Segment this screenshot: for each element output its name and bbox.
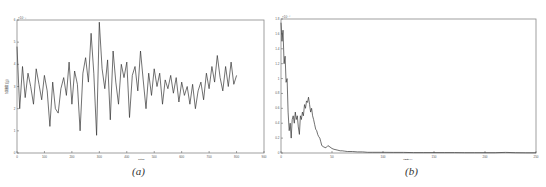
x-tick-label: 250	[533, 155, 538, 159]
y-tick-label: 0.6	[275, 106, 280, 110]
x-tick-label: 100	[380, 155, 385, 159]
chart-panel-a: 01002003004005006007008009000123456×10⁻³…	[0, 0, 270, 187]
y-exponent: ×10⁻⁴	[282, 15, 291, 19]
data-line	[281, 23, 536, 153]
y-tick-label: 0.2	[275, 136, 280, 140]
y-tick-label: 4	[14, 62, 16, 66]
y-tick-label: 1.6	[275, 32, 280, 36]
time-series-chart: 01002003004005006007008009000123456×10⁻³…	[0, 0, 270, 160]
y-tick-label: 1	[278, 77, 280, 81]
plot-frame	[281, 19, 536, 153]
y-tick-label: 3	[14, 85, 16, 89]
y-tick-label: 2	[14, 107, 16, 111]
x-tick-label: 400	[124, 155, 129, 159]
x-axis-label: 时间	[138, 158, 145, 160]
y-tick-label: 1.4	[275, 47, 280, 51]
y-tick-label: 6	[14, 18, 16, 22]
x-tick-label: 0	[16, 155, 18, 159]
x-tick-label: 800	[234, 155, 239, 159]
x-tick-label: 600	[179, 155, 184, 159]
x-tick-label: 200	[69, 155, 74, 159]
spectrum-chart: 05010015020025000.20.40.60.811.21.41.61.…	[272, 0, 546, 160]
x-tick-label: 0	[280, 155, 282, 159]
y-tick-label: 5	[14, 40, 16, 44]
x-tick-label: 100	[42, 155, 47, 159]
caption-b: (b)	[405, 165, 418, 177]
y-tick-label: 0.4	[275, 121, 280, 125]
y-tick-label: 1.2	[275, 62, 280, 66]
y-tick-label: 1	[14, 129, 16, 133]
y-axis-label: 加速度 (g)	[4, 79, 9, 93]
x-tick-label: 900	[261, 155, 266, 159]
x-tick-label: 500	[152, 155, 157, 159]
x-tick-label: 150	[431, 155, 436, 159]
y-tick-label: 1.8	[275, 17, 280, 21]
chart-panel-b: 05010015020025000.20.40.60.811.21.41.61.…	[272, 0, 546, 187]
x-tick-label: 200	[482, 155, 487, 159]
data-line	[17, 22, 237, 135]
x-tick-label: 300	[97, 155, 102, 159]
plot-frame	[17, 20, 264, 153]
x-tick-label: 700	[207, 155, 212, 159]
x-tick-label: 50	[330, 155, 334, 159]
y-exponent: ×10⁻³	[18, 16, 26, 20]
y-tick-label: 0.8	[275, 91, 280, 95]
x-axis-label: 频率 Hz	[403, 158, 415, 160]
caption-a: (a)	[132, 165, 145, 177]
